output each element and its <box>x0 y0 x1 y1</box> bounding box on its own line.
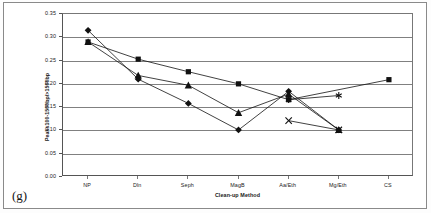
series-line <box>88 42 389 100</box>
x-axis-tick-label: NP <box>83 182 91 188</box>
data-point-diamond <box>185 100 192 107</box>
x-axis-tick-label: Seph <box>181 182 194 188</box>
data-point-diamond <box>235 127 242 134</box>
y-axis-tick-mark <box>59 176 62 177</box>
y-axis-tick-label: 0.00 <box>26 173 56 179</box>
x-axis-tick-label: Mg/Eth <box>329 182 347 188</box>
data-point-triangle <box>235 109 242 116</box>
figure-panel: Peaks100-1500bp/>1500bp Clean-up Method … <box>0 0 431 213</box>
data-point-square <box>186 69 191 74</box>
series-line <box>88 30 339 130</box>
data-point-triangle <box>135 72 142 79</box>
x-axis-title: Clean-up Method <box>62 192 413 198</box>
y-axis-tick-label: 0.10 <box>26 126 56 132</box>
y-axis-tick-label: 0.05 <box>26 150 56 156</box>
y-axis-tick-label: 0.35 <box>26 10 56 16</box>
data-series-layer <box>63 14 414 177</box>
y-axis-tick-label: 0.20 <box>26 80 56 86</box>
series-line <box>289 121 339 130</box>
plot-area <box>62 13 413 176</box>
panel-letter-label: (g) <box>12 188 27 204</box>
data-point-cross <box>285 117 291 123</box>
x-axis-tick-label: Aa/Eth <box>279 182 296 188</box>
y-axis-tick-label: 0.30 <box>26 33 56 39</box>
y-axis-tick-label: 0.25 <box>26 57 56 63</box>
data-point-square <box>386 77 391 82</box>
y-axis-tick-label: 0.15 <box>26 103 56 109</box>
data-point-square <box>236 81 241 86</box>
x-axis-tick-label: CS <box>384 182 392 188</box>
x-axis-tick-label: MagB <box>230 182 244 188</box>
x-axis-tick-label: Dln <box>133 182 141 188</box>
data-point-square <box>136 57 141 62</box>
